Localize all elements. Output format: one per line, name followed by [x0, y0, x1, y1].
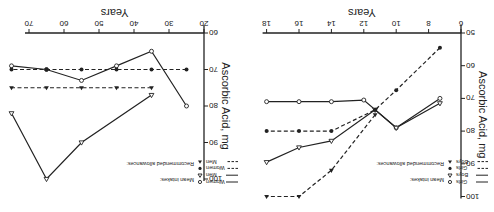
open-circle-marker [80, 78, 84, 82]
y-tick-label: 60 [208, 28, 217, 37]
y-tick-label: 90 [208, 138, 217, 147]
x-tick-label: 10 [391, 19, 400, 28]
x-tick-label: 16 [294, 19, 303, 28]
x-tick-label: 50 [94, 19, 103, 28]
open-circle-marker [448, 180, 451, 183]
filled-circle-marker [115, 68, 119, 72]
legend: Mean intakes:Recommended allowances:Wome… [126, 159, 238, 185]
legend-title-allowances: Recommended allowances: [376, 161, 444, 167]
y-tick-label: 50 [465, 28, 474, 37]
filled-circle-marker [198, 167, 201, 170]
filled-circle-marker [394, 88, 398, 92]
legend-item-label: Girls [456, 179, 468, 185]
x-tick-label: 6 [458, 19, 463, 28]
open-circle-marker [150, 49, 154, 53]
open-circle-marker [10, 64, 14, 68]
open-triangle-marker [149, 93, 154, 97]
series-line [12, 51, 187, 106]
legend-item-label: Men [206, 172, 217, 178]
open-triangle-marker [329, 139, 334, 143]
x-tick-label: 14 [326, 19, 335, 28]
open-triangle-marker [394, 126, 399, 130]
legend-item-label: Boys [456, 159, 468, 165]
legend-item-label: Women [206, 165, 225, 171]
filled-circle-marker [265, 129, 269, 133]
filled-circle-marker [45, 68, 49, 72]
filled-circle-marker [297, 129, 301, 133]
x-tick-label: 70 [24, 19, 33, 28]
filled-circle-marker [150, 68, 154, 72]
x-tick-label: 20 [199, 19, 208, 28]
legend-item-label: Women [206, 179, 225, 185]
y-tick-label: 80 [208, 101, 217, 110]
rotated-chart-canvas: 203040506070Years60708090100Ascorbic Aci… [0, 0, 494, 212]
filled-circle-marker [438, 46, 442, 50]
y-tick-label: 60 [465, 61, 474, 70]
filled-circle-marker [80, 68, 84, 72]
chart-panel-0: 203040506070Years60708090100Ascorbic Aci… [9, 7, 238, 185]
open-triangle-marker [44, 177, 49, 181]
x-tick-label: 30 [164, 19, 173, 28]
x-tick-label: 18 [262, 19, 271, 28]
open-circle-marker [198, 180, 201, 183]
open-triangle-marker [264, 161, 269, 165]
y-axis-label: Ascorbic Acid, mg [477, 71, 489, 158]
open-circle-marker [115, 64, 119, 68]
x-axis-label: Years [100, 7, 128, 19]
open-triangle-marker [297, 146, 302, 150]
filled-circle-marker [373, 108, 377, 112]
filled-triangle-marker [448, 160, 452, 163]
y-axis-label: Ascorbic Acid, mg [220, 62, 232, 149]
x-tick-label: 12 [359, 19, 368, 28]
open-circle-marker [265, 100, 269, 104]
open-circle-marker [329, 100, 333, 104]
open-circle-marker [185, 104, 189, 108]
x-tick-label: 8 [426, 19, 431, 28]
filled-circle-marker [329, 129, 333, 133]
series-line [267, 115, 376, 197]
legend-item-label: Men [206, 159, 217, 165]
legend-item-label: Boys [456, 172, 468, 178]
series-line [267, 98, 440, 127]
y-tick-label: 100 [465, 192, 479, 201]
filled-circle-marker [10, 68, 14, 72]
filled-circle-marker [185, 68, 189, 72]
series-line [267, 103, 440, 162]
legend-title-means: Mean intakes: [409, 177, 444, 183]
filled-circle-marker [448, 167, 451, 170]
legend-title-allowances: Recommended allowances: [126, 161, 194, 167]
filled-triangle-marker [198, 160, 202, 163]
x-axis-label: Years [347, 7, 375, 19]
open-triangle-marker [198, 174, 202, 177]
open-triangle-marker [448, 174, 452, 177]
series-line [267, 48, 440, 131]
chart-panel-1: 681012141618Years5060708090100Ascorbic A… [262, 7, 489, 201]
y-tick-label: 80 [465, 126, 474, 135]
legend-item-label: Girls [456, 165, 468, 171]
open-circle-marker [438, 96, 442, 100]
charts-group: 203040506070Years60708090100Ascorbic Aci… [9, 7, 489, 201]
figure: 203040506070Years60708090100Ascorbic Aci… [0, 0, 494, 212]
legend-title-means: Mean intakes: [159, 177, 194, 183]
x-tick-label: 40 [129, 19, 138, 28]
y-tick-label: 70 [465, 93, 474, 102]
y-tick-label: 70 [208, 65, 217, 74]
open-circle-marker [362, 98, 366, 102]
x-tick-label: 60 [59, 19, 68, 28]
open-triangle-marker [438, 102, 443, 106]
open-circle-marker [297, 100, 301, 104]
